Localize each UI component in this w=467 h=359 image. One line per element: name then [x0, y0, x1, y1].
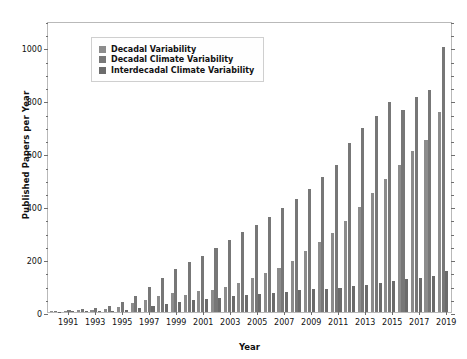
y-axis-tick-right — [451, 116, 454, 117]
y-axis-tick-right — [451, 301, 454, 302]
bar — [419, 278, 422, 312]
x-axis-tick — [311, 312, 312, 315]
x-axis-tick-label: 1999 — [166, 318, 186, 327]
y-axis-tick — [46, 169, 49, 170]
legend-item-label: Decadal Climate Variability — [111, 55, 233, 64]
bar — [151, 306, 154, 312]
y-axis-tick — [46, 182, 49, 183]
bar — [104, 309, 107, 312]
y-axis-tick — [46, 76, 49, 77]
legend-swatch-icon — [99, 46, 106, 53]
y-axis-tick-right — [451, 221, 454, 222]
y-axis-tick — [44, 102, 48, 103]
bar — [111, 311, 114, 312]
x-axis-tick — [419, 312, 420, 315]
y-axis-tick — [46, 288, 49, 289]
y-axis-tick — [46, 63, 49, 64]
x-axis-tick — [176, 312, 177, 315]
y-axis-tick — [44, 261, 48, 262]
bar — [241, 232, 244, 312]
y-axis-tick-right — [451, 248, 454, 249]
x-axis-tick — [203, 312, 204, 315]
y-axis-tick-label: 600 — [27, 151, 42, 160]
y-axis-tick — [46, 23, 49, 24]
bar — [174, 269, 177, 312]
x-axis-tick-label: 1995 — [112, 318, 132, 327]
x-axis-tick-label: 2009 — [301, 318, 321, 327]
y-axis-tick-label: 0 — [37, 310, 42, 319]
x-axis-tick — [149, 312, 150, 315]
bar — [71, 311, 74, 312]
y-axis-tick-right — [451, 261, 455, 262]
bar — [442, 47, 445, 312]
bar — [318, 242, 321, 312]
y-axis-tick — [46, 301, 49, 302]
bar — [281, 208, 284, 312]
x-axis-tick-label: 2011 — [328, 318, 348, 327]
bar — [371, 193, 374, 312]
y-axis-tick-right — [451, 195, 454, 196]
bar — [277, 268, 280, 312]
x-axis-tick — [122, 312, 123, 315]
bar-group — [49, 23, 62, 312]
bar — [424, 140, 427, 312]
bar-group — [356, 23, 369, 312]
y-axis-tick-right — [451, 155, 455, 156]
y-axis-tick — [44, 155, 48, 156]
bar — [125, 310, 128, 312]
bar — [401, 110, 404, 312]
y-axis-tick-label: 1000 — [22, 45, 42, 54]
bar-group — [263, 23, 276, 312]
y-axis-tick-right — [451, 129, 454, 130]
bar-group — [76, 23, 89, 312]
y-axis-tick-label: 800 — [27, 98, 42, 107]
x-axis-tick-label: 2003 — [220, 318, 240, 327]
y-axis-tick-right — [451, 102, 455, 103]
legend-item-label: Interdecadal Climate Variability — [111, 66, 254, 75]
y-axis-tick-right — [451, 314, 455, 315]
bar — [331, 233, 334, 312]
y-axis-tick-right — [451, 23, 454, 24]
x-axis-tick-label: 2019 — [436, 318, 456, 327]
y-axis-tick — [46, 195, 49, 196]
bar — [411, 151, 414, 312]
bar — [178, 302, 181, 312]
legend-item[interactable]: Decadal Variability — [99, 45, 254, 54]
legend-item-label: Decadal Variability — [111, 45, 196, 54]
bar — [77, 310, 80, 312]
bar-group — [396, 23, 409, 312]
bar-group — [370, 23, 383, 312]
bar — [321, 177, 324, 312]
bar — [392, 281, 395, 312]
legend-item[interactable]: Decadal Climate Variability — [99, 55, 254, 64]
y-axis-tick — [46, 142, 49, 143]
y-axis-tick — [46, 274, 49, 275]
bar-group — [383, 23, 396, 312]
y-axis-tick-right — [451, 36, 454, 37]
bar — [85, 311, 88, 312]
x-axis-tick — [95, 312, 96, 315]
bar-group — [343, 23, 356, 312]
x-axis-tick — [392, 312, 393, 315]
bar — [188, 262, 191, 312]
y-axis-tick — [46, 89, 49, 90]
bar — [438, 112, 441, 312]
y-axis-tick — [46, 248, 49, 249]
bar — [98, 311, 101, 312]
bar — [258, 294, 261, 312]
x-axis-tick — [365, 312, 366, 315]
bar-group — [289, 23, 302, 312]
bar-group — [62, 23, 75, 312]
bar — [54, 311, 57, 312]
bar — [64, 311, 67, 312]
legend-item[interactable]: Interdecadal Climate Variability — [99, 66, 254, 75]
y-axis-tick-right — [451, 288, 454, 289]
bar — [90, 310, 93, 312]
bar — [325, 289, 328, 312]
bar — [192, 300, 195, 312]
bar-chart-figure: Published Papers per Year Decadal Variab… — [0, 0, 467, 359]
bar — [131, 303, 134, 312]
bar — [218, 298, 221, 312]
bar — [255, 225, 258, 312]
legend-swatch-icon — [99, 67, 106, 74]
